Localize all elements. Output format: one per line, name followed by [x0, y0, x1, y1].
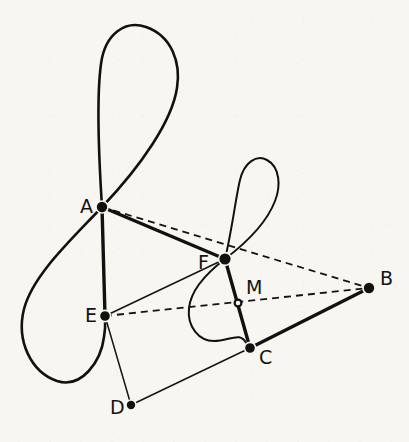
thin-edge-layer [105, 259, 250, 405]
vertex-label-f: F [198, 251, 209, 273]
vertex-marker-c[interactable] [244, 342, 255, 353]
vertex-marker-f[interactable] [219, 253, 232, 266]
vertex-marker-a[interactable] [96, 201, 108, 213]
vertex-label-d: D [110, 396, 125, 418]
edge-c-b [250, 288, 369, 348]
edge-e-d [105, 316, 131, 405]
vertex-label-a: A [80, 195, 93, 217]
vertex-label-c: C [259, 346, 272, 368]
diagram-svg: ABCDEFM [0, 0, 409, 442]
vertex-marker-m[interactable] [235, 300, 242, 307]
vertex-marker-b[interactable] [363, 282, 375, 294]
vertex-marker-d[interactable] [126, 400, 136, 410]
vertex-marker-e[interactable] [99, 310, 110, 321]
curve-layer [22, 25, 279, 382]
thick-edge-layer [102, 207, 369, 348]
geometry-figure-canvas: ABCDEFM [0, 0, 409, 442]
vertex-label-b: B [380, 267, 393, 289]
vertex-label-m: M [246, 276, 262, 298]
edge-a-e [102, 207, 105, 316]
vertex-label-e: E [85, 304, 97, 326]
edge-d-c [131, 348, 250, 405]
edge-a-b-dashed [102, 207, 369, 288]
